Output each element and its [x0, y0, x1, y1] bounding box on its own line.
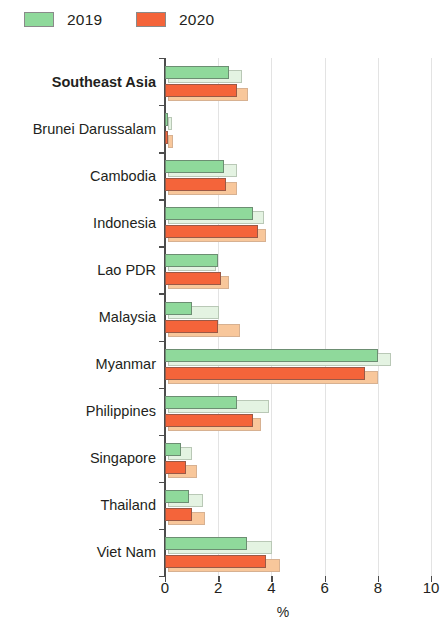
x-axis-title: % [0, 604, 441, 620]
bar-2019-thailand [165, 490, 204, 503]
bar-fill [165, 131, 168, 144]
y-axis-label-brunei-darussalam: Brunei Darussalam [33, 122, 156, 137]
y-axis-label-viet-nam: Viet Nam [97, 545, 156, 560]
bar-fill [165, 178, 226, 191]
plot-area [165, 58, 431, 576]
bar-2020-viet-nam [165, 555, 281, 568]
bar-2020-brunei-darussalam [165, 131, 174, 144]
bar-2019-lao-pdr [165, 254, 222, 267]
bar-fill [165, 84, 237, 97]
y-axis-label-lao-pdr: Lao PDR [97, 263, 156, 278]
bar-fill [165, 66, 229, 79]
y-axis-label-cambodia: Cambodia [90, 169, 156, 184]
y-axis-tick [159, 152, 165, 153]
y-axis-tick [159, 435, 165, 436]
bar-2020-singapore [165, 461, 198, 474]
bar-fill [165, 508, 192, 521]
legend-swatch-green-icon [24, 12, 54, 27]
bar-fill [165, 254, 218, 267]
y-axis-tick [159, 58, 165, 59]
bar-2019-philippines [165, 396, 270, 409]
y-axis-tick [159, 199, 165, 200]
bar-2020-lao-pdr [165, 272, 230, 285]
bar-2020-indonesia [165, 225, 267, 238]
x-axis-tick-label: 6 [320, 580, 328, 595]
bar-shadow [168, 117, 172, 130]
x-axis-tick-label: 0 [161, 580, 169, 595]
legend-item-2020: 2020 [136, 12, 214, 28]
y-axis-tick [159, 529, 165, 530]
y-axis-tick [159, 482, 165, 483]
y-axis-category-labels: Southeast AsiaBrunei DarussalamCambodiaI… [0, 58, 165, 576]
bar-2020-thailand [165, 508, 206, 521]
bar-fill [165, 160, 224, 173]
chart-legend: 2019 2020 [0, 0, 441, 46]
y-axis-label-singapore: Singapore [90, 451, 156, 466]
y-axis-tick [159, 246, 165, 247]
y-axis-label-philippines: Philippines [86, 404, 156, 419]
bar-2019-malaysia [165, 302, 220, 315]
bar-chart: 2019 2020 Southeast AsiaBrunei Darussala… [0, 0, 441, 629]
y-axis-label-thailand: Thailand [100, 498, 156, 513]
y-axis-label-indonesia: Indonesia [93, 216, 156, 231]
bar-2019-cambodia [165, 160, 238, 173]
bar-fill [165, 461, 186, 474]
bar-2020-philippines [165, 414, 262, 427]
x-axis-tick-label: 10 [423, 580, 440, 595]
bar-2020-cambodia [165, 178, 238, 191]
bar-fill [165, 349, 378, 362]
bar-fill [165, 272, 221, 285]
bar-fill [165, 396, 237, 409]
legend-swatch-orange-icon [136, 12, 166, 27]
bar-2019-myanmar [165, 349, 392, 362]
bar-2019-indonesia [165, 207, 265, 220]
bar-fill [165, 414, 253, 427]
legend-label-2020: 2020 [179, 12, 214, 28]
bar-fill [165, 320, 218, 333]
y-axis-label-myanmar: Myanmar [96, 357, 156, 372]
bar-fill [165, 367, 365, 380]
bar-shadow [168, 135, 173, 148]
legend-label-2019: 2019 [67, 12, 102, 28]
bar-2020-southeast-asia [165, 84, 249, 97]
bar-2019-southeast-asia [165, 66, 243, 79]
x-axis-tick-label: 2 [214, 580, 222, 595]
bar-fill [165, 443, 181, 456]
bar-fill [165, 302, 192, 315]
bar-2019-singapore [165, 443, 193, 456]
x-axis-title-text: % [277, 604, 289, 620]
y-axis-tick [159, 105, 165, 106]
bar-2020-malaysia [165, 320, 241, 333]
y-axis-tick [159, 388, 165, 389]
gridline [378, 58, 379, 576]
bar-fill [165, 113, 168, 126]
gridline [431, 58, 432, 576]
bar-2020-myanmar [165, 367, 379, 380]
y-axis-tick [159, 293, 165, 294]
bar-2019-viet-nam [165, 537, 273, 550]
y-axis-label-malaysia: Malaysia [99, 310, 156, 325]
bar-fill [165, 555, 266, 568]
x-axis-tick-label: 8 [374, 580, 382, 595]
bar-fill [165, 225, 258, 238]
bar-fill [165, 207, 253, 220]
bar-fill [165, 490, 189, 503]
y-axis-tick [159, 341, 165, 342]
gridline [325, 58, 326, 576]
x-axis-tick-label: 4 [267, 580, 275, 595]
x-axis: 0246810 [165, 576, 441, 606]
bar-fill [165, 537, 247, 550]
legend-item-2019: 2019 [24, 12, 102, 28]
bar-2019-brunei-darussalam [165, 113, 173, 126]
y-axis-label-southeast-asia: Southeast Asia [52, 75, 156, 90]
gridline [271, 58, 272, 576]
